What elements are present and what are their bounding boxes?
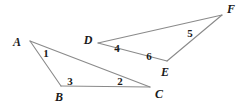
vertex-label-b: B [54, 90, 63, 104]
angle-label-5: 5 [187, 27, 193, 39]
geometry-figure: A B C D E F 1 2 3 4 5 6 [0, 0, 245, 110]
segment-bc [61, 86, 150, 87]
vertex-label-e: E [160, 65, 169, 79]
segment-df [98, 15, 222, 43]
triangle-def [98, 15, 222, 61]
angle-label-2: 2 [117, 75, 123, 87]
angle-label-6: 6 [146, 50, 152, 62]
angle-label-1: 1 [43, 47, 49, 59]
vertex-label-a: A [12, 35, 21, 49]
vertex-label-f: F [226, 2, 235, 16]
angle-label-3: 3 [67, 75, 73, 87]
segment-fe [167, 15, 222, 61]
geometry-diagram-svg: A B C D E F 1 2 3 4 5 6 [0, 0, 245, 110]
vertex-label-c: C [155, 87, 164, 101]
angle-label-4: 4 [114, 42, 120, 54]
vertex-label-d: D [83, 33, 93, 47]
segment-de [98, 43, 167, 61]
